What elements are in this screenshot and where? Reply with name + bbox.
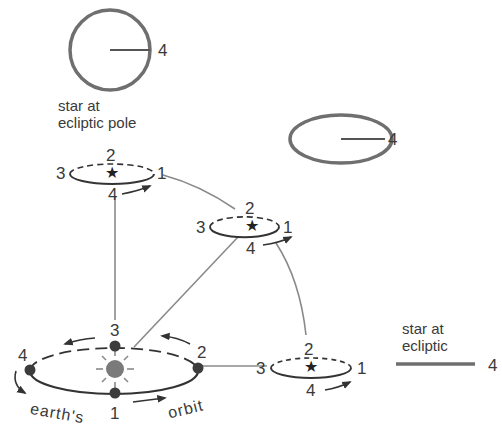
ecliptic-star-label-4: 4	[488, 357, 497, 374]
top-left-label-1: 1	[157, 165, 166, 182]
star-icon: ★	[245, 218, 259, 234]
orbit-label-4: 4	[18, 347, 27, 364]
connector-pole-to-mid	[163, 175, 235, 209]
earth-position-2	[193, 363, 204, 374]
ecliptic-star-caption-line2: ecliptic	[402, 337, 448, 354]
right-label-3: 3	[256, 360, 265, 377]
mid-star-label-4: 4	[388, 131, 397, 148]
mid-star-ellipse	[290, 115, 392, 163]
pole-star-circle	[70, 10, 150, 90]
ecliptic-star-caption-line1: star at	[402, 320, 444, 337]
star-icon: ★	[105, 165, 119, 181]
sun-icon	[96, 350, 134, 388]
middle-label-4: 4	[246, 240, 255, 257]
pole-star-caption-line1: star at	[58, 97, 100, 114]
right-label-4: 4	[306, 382, 315, 399]
pole-star-label-4: 4	[158, 42, 167, 59]
top-left-label-3: 3	[56, 165, 65, 182]
earth-position-1	[110, 388, 121, 399]
right-label-2: 2	[304, 341, 313, 358]
orbit-label-1: 1	[110, 405, 119, 422]
top-left-label-2: 2	[106, 147, 115, 164]
connector-earth-to-mid	[134, 237, 238, 347]
middle-label-2: 2	[245, 200, 254, 217]
top-left-label-4: 4	[108, 186, 117, 203]
middle-label-3: 3	[196, 219, 205, 236]
earth-position-3	[110, 341, 121, 352]
earth-position-4	[25, 365, 36, 376]
connector-mid-to-right	[276, 243, 306, 335]
orbit-label-3: 3	[110, 322, 119, 339]
parallax-diagram: 4 star at ecliptic pole 4 star at eclipt…	[0, 0, 502, 437]
right-label-1: 1	[357, 360, 366, 377]
pole-star-caption-line2: ecliptic pole	[58, 114, 136, 131]
middle-label-1: 1	[283, 219, 292, 236]
connector-lines	[115, 175, 306, 366]
star-icon: ★	[304, 359, 318, 375]
orbit-label-2: 2	[197, 344, 206, 361]
